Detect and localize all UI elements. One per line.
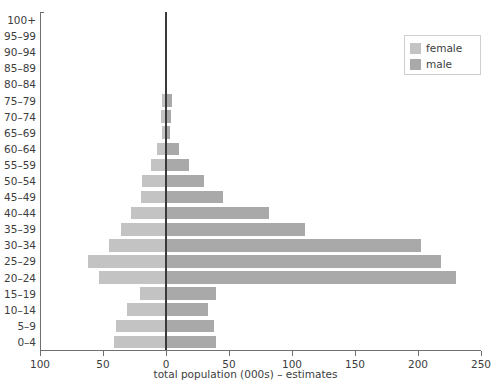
bar-row — [40, 303, 481, 316]
y-axis-label-2: 90–94 — [4, 46, 36, 58]
x-tick-7 — [481, 351, 482, 356]
y-axis-labels: 100+95–9990–9485–8980–8475–7970–7465–696… — [0, 12, 36, 350]
legend-item-male[interactable]: male — [410, 57, 475, 72]
bar-female — [141, 191, 166, 204]
zero-reference-line — [165, 12, 166, 350]
bar-row — [40, 14, 481, 27]
x-tick-0 — [40, 351, 41, 356]
bar-male — [166, 271, 456, 284]
bar-female — [127, 303, 166, 316]
y-axis-label-20: 0–4 — [17, 336, 36, 348]
y-axis-label-15: 25–29 — [4, 255, 36, 267]
legend-swatch-female — [410, 43, 421, 54]
bar-female — [131, 207, 166, 220]
y-axis-label-3: 85–89 — [4, 62, 36, 74]
bar-male — [166, 239, 421, 252]
legend: female male — [404, 35, 481, 75]
bar-row — [40, 320, 481, 333]
y-axis-label-0: 100+ — [7, 14, 36, 26]
y-axis-label-7: 65–69 — [4, 127, 36, 139]
bar-female — [109, 239, 166, 252]
x-axis-title: total population (000s) – estimates — [0, 368, 491, 380]
bar-female — [121, 223, 166, 236]
y-axis-label-12: 40–44 — [4, 207, 36, 219]
bar-row — [40, 94, 481, 107]
legend-item-female[interactable]: female — [410, 41, 475, 56]
bar-male — [166, 303, 208, 316]
bar-male — [166, 191, 223, 204]
bar-male — [166, 255, 441, 268]
bar-female — [142, 175, 166, 188]
bar-female — [88, 255, 166, 268]
bar-row — [40, 223, 481, 236]
bar-male — [166, 287, 216, 300]
bar-male — [166, 207, 269, 220]
bar-row — [40, 159, 481, 172]
x-tick-1 — [103, 351, 104, 356]
y-axis-label-19: 5–9 — [17, 320, 36, 332]
bar-male — [166, 110, 171, 123]
y-axis-label-9: 55–59 — [4, 159, 36, 171]
x-tick-4 — [292, 351, 293, 356]
y-axis-label-4: 80–84 — [4, 78, 36, 90]
bar-row — [40, 175, 481, 188]
bar-row — [40, 239, 481, 252]
bar-male — [166, 94, 172, 107]
bar-male — [166, 336, 216, 349]
bar-male — [166, 143, 179, 156]
bar-row — [40, 191, 481, 204]
x-tick-6 — [418, 351, 419, 356]
bar-row — [40, 110, 481, 123]
x-tick-3 — [229, 351, 230, 356]
legend-swatch-male — [410, 59, 421, 70]
y-axis-label-16: 20–24 — [4, 272, 36, 284]
x-axis-line — [40, 350, 481, 351]
x-tick-2 — [166, 351, 167, 356]
y-axis-label-5: 75–79 — [4, 95, 36, 107]
y-axis-label-8: 60–64 — [4, 143, 36, 155]
y-axis-label-10: 50–54 — [4, 175, 36, 187]
bar-female — [114, 336, 166, 349]
y-axis-label-18: 10–14 — [4, 304, 36, 316]
bar-row — [40, 143, 481, 156]
bar-row — [40, 255, 481, 268]
bar-male — [166, 175, 204, 188]
bar-female — [116, 320, 166, 333]
legend-label-male: male — [426, 59, 452, 70]
bar-row — [40, 271, 481, 284]
y-axis-label-6: 70–74 — [4, 111, 36, 123]
bar-row — [40, 287, 481, 300]
population-pyramid-chart: 100+95–9990–9485–8980–8475–7970–7465–696… — [0, 0, 491, 389]
y-axis-label-13: 35–39 — [4, 223, 36, 235]
bar-female — [151, 159, 166, 172]
bar-row — [40, 126, 481, 139]
bar-row — [40, 207, 481, 220]
bar-row — [40, 336, 481, 349]
y-axis-label-1: 95–99 — [4, 30, 36, 42]
bar-male — [166, 223, 305, 236]
legend-label-female: female — [426, 43, 462, 54]
y-axis-label-17: 15–19 — [4, 288, 36, 300]
y-axis-label-11: 45–49 — [4, 191, 36, 203]
bar-male — [166, 159, 189, 172]
bar-male — [166, 320, 214, 333]
bar-row — [40, 78, 481, 91]
bar-female — [99, 271, 166, 284]
y-axis-label-14: 30–34 — [4, 239, 36, 251]
bar-female — [140, 287, 166, 300]
x-tick-5 — [355, 351, 356, 356]
